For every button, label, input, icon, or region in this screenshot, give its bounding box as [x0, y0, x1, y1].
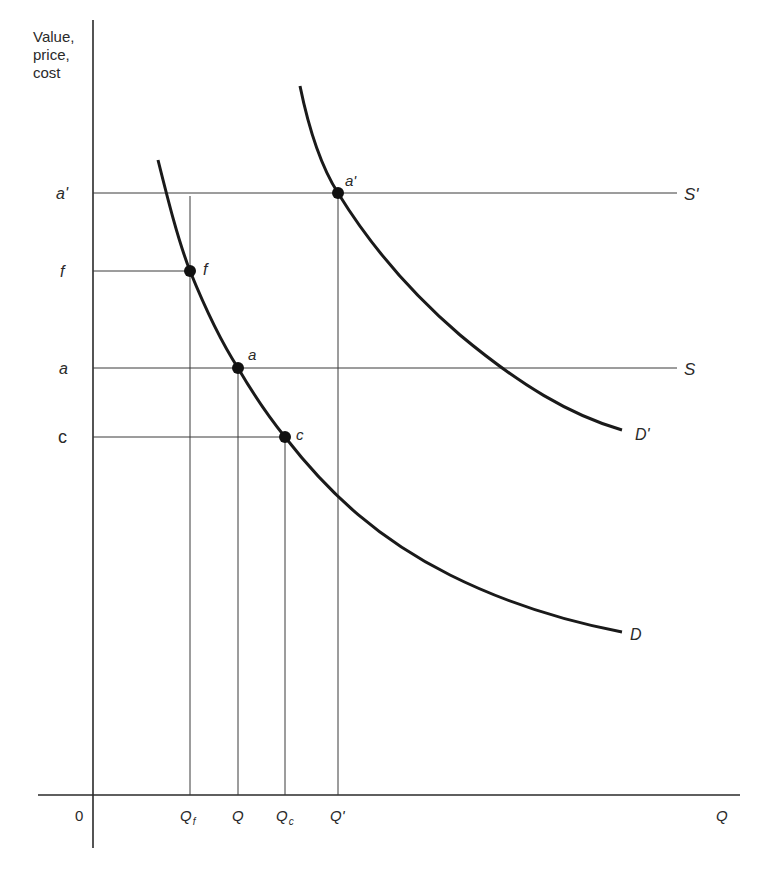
y-tick-f: f [60, 263, 66, 280]
point-f [184, 265, 196, 277]
point-a [232, 362, 244, 374]
y-tick-a-prime: a' [56, 185, 69, 202]
y-tick-c: c [58, 427, 67, 447]
y-tick-a: a [59, 360, 68, 377]
demand-curve-d [158, 160, 622, 632]
point-label-a: a [248, 346, 256, 363]
x-tick-q: Q [232, 807, 244, 824]
point-c [279, 431, 291, 443]
y-axis-label-line3: cost [33, 64, 61, 81]
y-axis-label-line1: Value, [33, 28, 74, 45]
demand-curve-d-prime [300, 86, 622, 430]
demand-supply-diagram: Value, price, cost a' f a c a' f a c S' … [0, 0, 770, 873]
curve-label-d: D [630, 626, 642, 643]
point-label-a-prime: a' [345, 172, 357, 189]
curve-label-d-prime: D' [635, 426, 651, 443]
x-tick-qf: Qf [180, 807, 197, 827]
x-tick-qc: Qc [276, 807, 294, 827]
point-label-f: f [203, 261, 209, 278]
curve-label-s: S [684, 360, 696, 379]
point-a-prime [332, 187, 344, 199]
curve-label-s-prime: S' [684, 185, 699, 204]
origin-label: 0 [75, 807, 83, 824]
x-axis-label: Q [716, 807, 728, 824]
y-axis-label-line2: price, [33, 46, 70, 63]
x-tick-q-prime: Q' [330, 807, 346, 824]
point-label-c: c [296, 426, 304, 443]
